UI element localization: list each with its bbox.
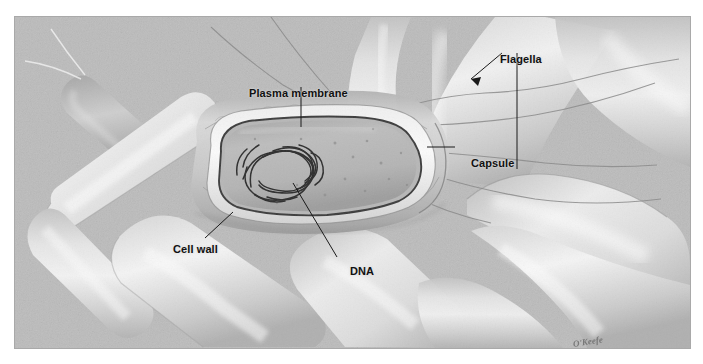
label-capsule: Capsule [471, 157, 515, 169]
label-plasma-membrane: Plasma membrane [249, 87, 348, 99]
bacterium-illustration: Plasma membrane Flagella Capsule Cell wa… [15, 17, 690, 348]
label-flagella: Flagella [500, 53, 542, 65]
illustration-artwork [15, 17, 690, 348]
figure-frame: Plasma membrane Flagella Capsule Cell wa… [0, 0, 703, 364]
label-dna: DNA [350, 265, 374, 277]
label-cell-wall: Cell wall [173, 243, 218, 255]
